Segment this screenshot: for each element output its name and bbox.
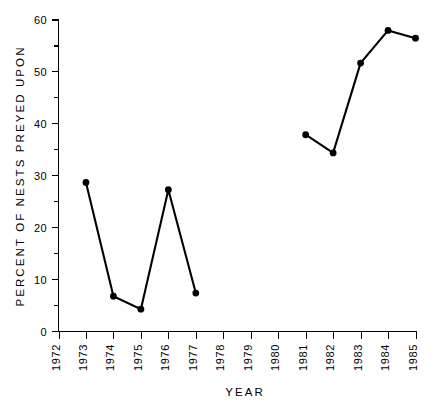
x-tick-label: 1973: [77, 344, 89, 371]
x-tick-label: 1977: [187, 344, 199, 371]
x-tick-label: 1985: [407, 344, 419, 371]
y-tick-label: 10: [34, 274, 47, 286]
x-tick-label: 1975: [132, 344, 144, 371]
x-tick-label: 1980: [269, 344, 281, 371]
data-point: [385, 27, 392, 34]
y-tick-label: 20: [34, 222, 47, 234]
x-tick-label: 1978: [214, 344, 226, 371]
x-tick-label: 1982: [324, 344, 336, 371]
data-point: [357, 60, 364, 67]
x-tick-label: 1983: [352, 344, 364, 371]
x-tick-label: 1976: [159, 344, 171, 371]
data-point: [412, 35, 419, 42]
x-tick-label: 1979: [242, 344, 254, 371]
line-chart: 0102030405060 19721973197419751976197719…: [0, 0, 437, 407]
y-tick-label: 30: [34, 170, 47, 182]
x-tick-label: 1981: [297, 344, 309, 371]
data-point: [330, 150, 337, 157]
data-point: [302, 131, 309, 138]
y-tick-label: 0: [40, 326, 47, 338]
data-point: [192, 290, 199, 297]
y-tick-label: 50: [34, 66, 47, 78]
y-axis-title: PERCENT OF NESTS PREYED UPON: [14, 45, 26, 306]
data-point: [110, 293, 117, 300]
x-tick-label: 1972: [50, 344, 62, 371]
data-point: [137, 306, 144, 313]
data-point: [165, 186, 172, 193]
data-point: [83, 179, 90, 186]
y-tick-label: 60: [34, 14, 47, 26]
x-axis-title: YEAR: [225, 386, 265, 398]
y-tick-label: 40: [34, 118, 47, 130]
x-tick-label: 1984: [379, 344, 391, 371]
x-tick-label: 1974: [104, 344, 116, 371]
chart-container: 0102030405060 19721973197419751976197719…: [0, 0, 437, 407]
